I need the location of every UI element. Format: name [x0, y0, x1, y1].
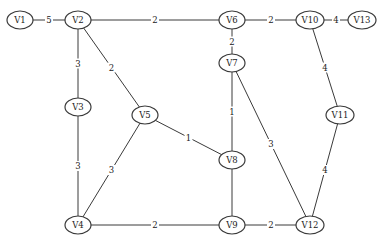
node-v6: V6 [219, 11, 245, 29]
node-v2: V2 [65, 11, 91, 29]
nodes-layer: V1V2V6V10V13V3V5V7V8V11V4V9V12 [7, 11, 376, 234]
edge-weight-label: 3 [268, 139, 273, 149]
node-label: V4 [71, 220, 84, 230]
node-label: V8 [225, 155, 238, 165]
edge-weight-label: 1 [229, 107, 234, 117]
edge-weight-label: 4 [322, 165, 327, 175]
edge-weight-label: 2 [109, 63, 114, 73]
node-label: V10 [301, 15, 319, 25]
edge-weight-label: 3 [109, 165, 114, 175]
node-v7: V7 [219, 54, 245, 72]
edges-layer [20, 20, 362, 225]
node-v11: V11 [326, 106, 354, 124]
node-v12: V12 [296, 216, 324, 234]
node-label: V11 [331, 110, 349, 120]
edge-weight-label: 4 [322, 63, 327, 73]
node-label: V3 [71, 102, 84, 112]
node-label: V7 [225, 58, 238, 68]
node-v9: V9 [219, 216, 245, 234]
node-v8: V8 [219, 151, 245, 169]
node-label: V6 [225, 15, 238, 25]
node-label: V2 [71, 15, 84, 25]
node-label: V12 [301, 220, 319, 230]
edge-weight-label: 2 [268, 15, 273, 25]
node-v1: V1 [7, 11, 33, 29]
node-v5: V5 [132, 106, 158, 124]
edge-weight-label: 2 [152, 15, 157, 25]
node-label: V13 [353, 15, 371, 25]
node-v10: V10 [296, 11, 324, 29]
node-v3: V3 [65, 98, 91, 116]
edge-weight-label: 1 [186, 133, 191, 143]
edge-weight-label: 2 [152, 220, 157, 230]
edge-weights-layer: 5224322431313422 [45, 15, 340, 230]
node-label: V1 [13, 15, 26, 25]
edge-weight-label: 5 [46, 15, 51, 25]
edge-weight-label: 3 [75, 59, 80, 69]
edge-weight-label: 2 [268, 220, 273, 230]
edge-weight-label: 2 [229, 37, 234, 47]
node-label: V5 [138, 110, 151, 120]
weighted-graph-diagram: 5224322431313422 V1V2V6V10V13V3V5V7V8V11… [0, 0, 385, 244]
node-v4: V4 [65, 216, 91, 234]
edge-weight-label: 4 [333, 15, 338, 25]
edge-weight-label: 3 [75, 161, 80, 171]
node-v13: V13 [348, 11, 376, 29]
node-label: V9 [225, 220, 238, 230]
